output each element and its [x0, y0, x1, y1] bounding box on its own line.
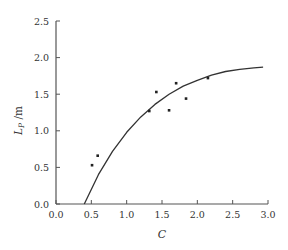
y-axis-label-text: LP /m	[12, 106, 26, 136]
chart-svg: 0.00.51.01.52.02.50.00.51.01.52.02.53.0 …	[0, 0, 288, 250]
fitted-curve-line	[84, 67, 263, 204]
x-tick-label: 2.0	[190, 209, 205, 220]
data-point	[185, 97, 188, 100]
x-axis-label: C	[158, 228, 167, 241]
y-tick-label: 0.0	[34, 199, 49, 210]
data-points	[91, 77, 209, 167]
data-point	[96, 154, 99, 157]
x-tick-label: 1.0	[119, 209, 134, 220]
x-tick-label: 0.5	[84, 209, 99, 220]
y-tick-label: 1.0	[34, 125, 49, 136]
data-point	[155, 91, 158, 94]
y-tick-label: 1.5	[34, 89, 49, 100]
y-axis-label: LP /m	[12, 106, 26, 136]
axes: 0.00.51.01.52.02.50.00.51.01.52.02.53.0	[34, 16, 276, 221]
x-tick-label: 3.0	[260, 209, 275, 220]
data-point	[175, 82, 178, 85]
data-point	[168, 109, 171, 112]
data-point	[91, 164, 94, 167]
y-tick-label: 2.0	[34, 52, 49, 63]
y-tick-label: 2.5	[34, 16, 49, 27]
x-tick-label: 2.5	[225, 209, 240, 220]
x-tick-label: 1.5	[154, 209, 169, 220]
chart: 0.00.51.01.52.02.50.00.51.01.52.02.53.0 …	[0, 0, 288, 250]
fitted-curve	[84, 67, 263, 204]
x-tick-label: 0.0	[48, 209, 63, 220]
data-point	[148, 110, 151, 113]
data-point	[207, 77, 210, 80]
y-tick-label: 0.5	[34, 162, 49, 173]
